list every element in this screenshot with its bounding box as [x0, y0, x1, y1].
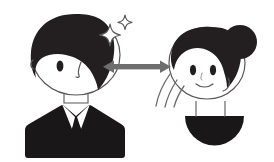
man-right-eye [87, 56, 94, 67]
woman-left-eye [190, 65, 196, 75]
illustration-canvas: Two people communicating [0, 0, 274, 162]
woman-right-eye [210, 65, 216, 75]
man-left-eye [57, 60, 64, 71]
arrow-shaft [112, 64, 162, 69]
communication-illustration [0, 0, 274, 162]
